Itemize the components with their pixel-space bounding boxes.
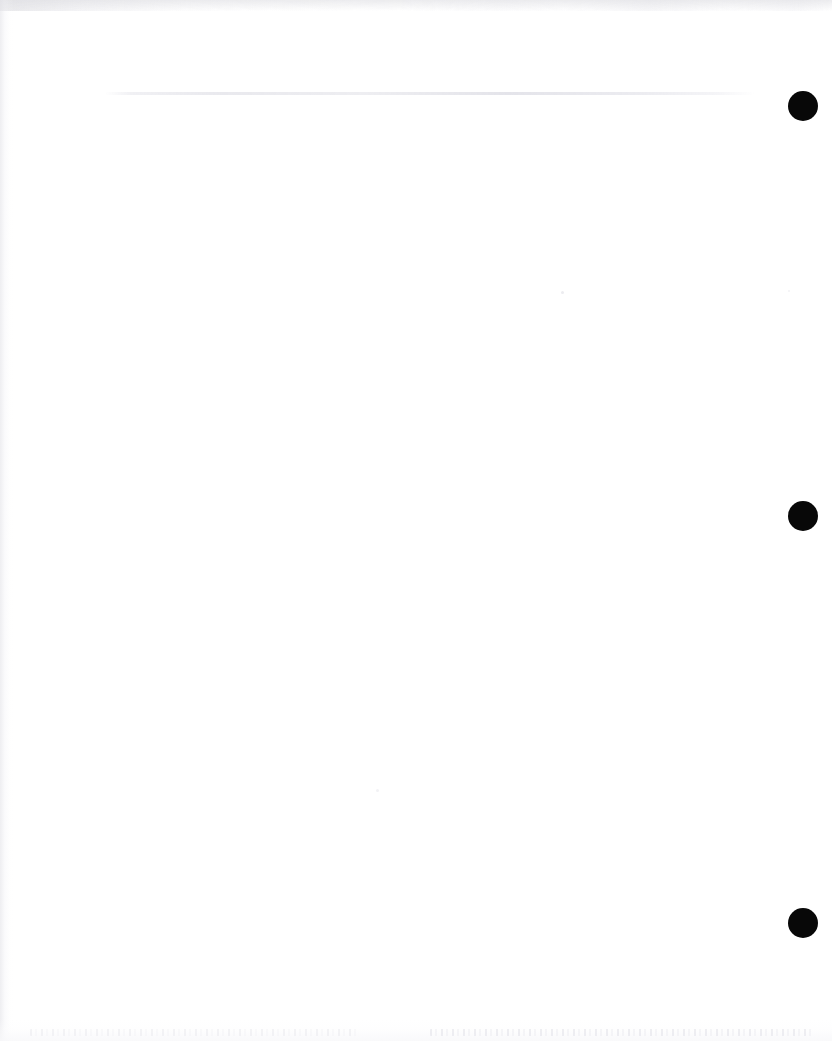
scan-top-edge-shadow xyxy=(0,0,832,11)
ghost-text-run-left xyxy=(30,1029,360,1036)
faint-horizontal-line xyxy=(105,92,755,95)
scan-speck xyxy=(561,291,564,294)
scan-speck xyxy=(376,789,379,792)
ghost-text-run-right xyxy=(430,1029,815,1036)
faded-bottom-text-ghost xyxy=(0,1019,832,1041)
scan-left-edge-shadow xyxy=(0,0,14,1041)
punch-hole-mark xyxy=(788,501,818,531)
punch-hole-mark xyxy=(788,908,818,938)
punch-hole-mark xyxy=(788,91,818,121)
scan-speck xyxy=(788,290,790,292)
scanned-page xyxy=(0,0,832,1041)
